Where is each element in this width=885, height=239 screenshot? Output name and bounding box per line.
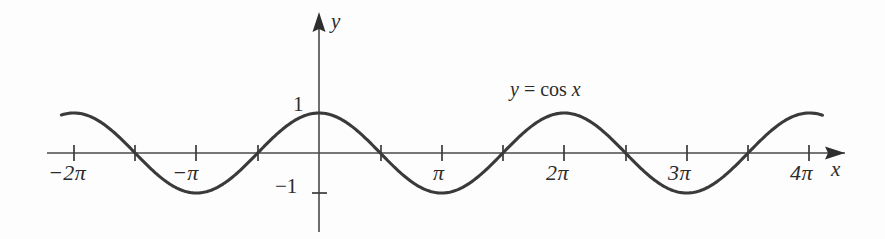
x-tick-label-2pi: 2π: [546, 162, 569, 184]
y-axis-label: y: [331, 11, 340, 32]
cosine-graph-figure: −2π −π π 2π 3π 4π 1 −1 x y y = cos x: [0, 0, 885, 239]
x-tick-label-neg-2pi: −2π: [48, 162, 86, 184]
y-tick-label-one: 1: [293, 94, 304, 115]
equation-equals: =: [524, 78, 535, 100]
x-axis-label: x: [831, 159, 840, 180]
equation-function-name: cos: [540, 78, 567, 100]
x-tick-label-4pi: 4π: [790, 162, 813, 184]
cosine-plot-canvas: [0, 0, 885, 239]
x-tick-label-pi: π: [433, 162, 445, 184]
y-axis-arrow-icon: [313, 12, 326, 32]
x-tick-label-3pi: 3π: [668, 162, 691, 184]
y-tick-label-neg-one: −1: [275, 176, 297, 197]
equation-variable: x: [572, 78, 581, 100]
x-tick-label-neg-pi: −π: [172, 162, 199, 184]
equation-lhs: y: [510, 78, 519, 100]
equation-annotation: y = cos x: [510, 79, 581, 99]
